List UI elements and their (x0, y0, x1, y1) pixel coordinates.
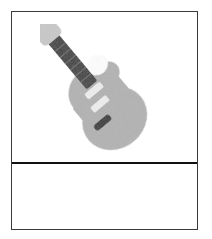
screenshot-root (0, 0, 212, 239)
figure-card (11, 11, 198, 230)
guitar-icon (40, 24, 162, 152)
caption-panel (12, 164, 197, 229)
guitar-illustration (12, 12, 197, 162)
image-panel (12, 12, 197, 162)
